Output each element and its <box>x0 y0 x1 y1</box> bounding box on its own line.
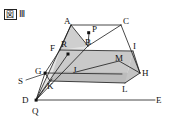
vertex-label-I: I <box>133 41 136 51</box>
figure-canvas: 図Ⅲ <box>0 0 172 125</box>
vertex-label-H: H <box>142 68 149 78</box>
vertex-label-A: A <box>64 16 71 26</box>
vertex-label-B: B <box>85 37 91 47</box>
vertex-label-E: E <box>156 95 162 105</box>
vertex-label-R: R <box>61 39 67 49</box>
vertex-label-C: C <box>123 16 129 26</box>
vertex-label-M: M <box>115 53 123 63</box>
vertex-label-J: J <box>73 65 77 75</box>
vertex-label-Q: Q <box>32 106 39 116</box>
vertex-label-G: G <box>35 66 42 76</box>
vertex-label-D: D <box>22 95 29 105</box>
geometry-diagram: A C P B R F I M H J G S K L D Q E <box>0 0 172 125</box>
point-dot-Q <box>35 99 38 102</box>
point-dot-P <box>87 31 90 34</box>
vertex-label-S: S <box>18 76 23 86</box>
point-dot-R <box>67 53 70 56</box>
vertex-label-F: F <box>50 43 55 53</box>
vertex-label-K: K <box>47 81 54 91</box>
vertex-label-L: L <box>122 84 128 94</box>
vertex-label-P: P <box>92 24 97 34</box>
point-dot-G <box>44 72 47 75</box>
